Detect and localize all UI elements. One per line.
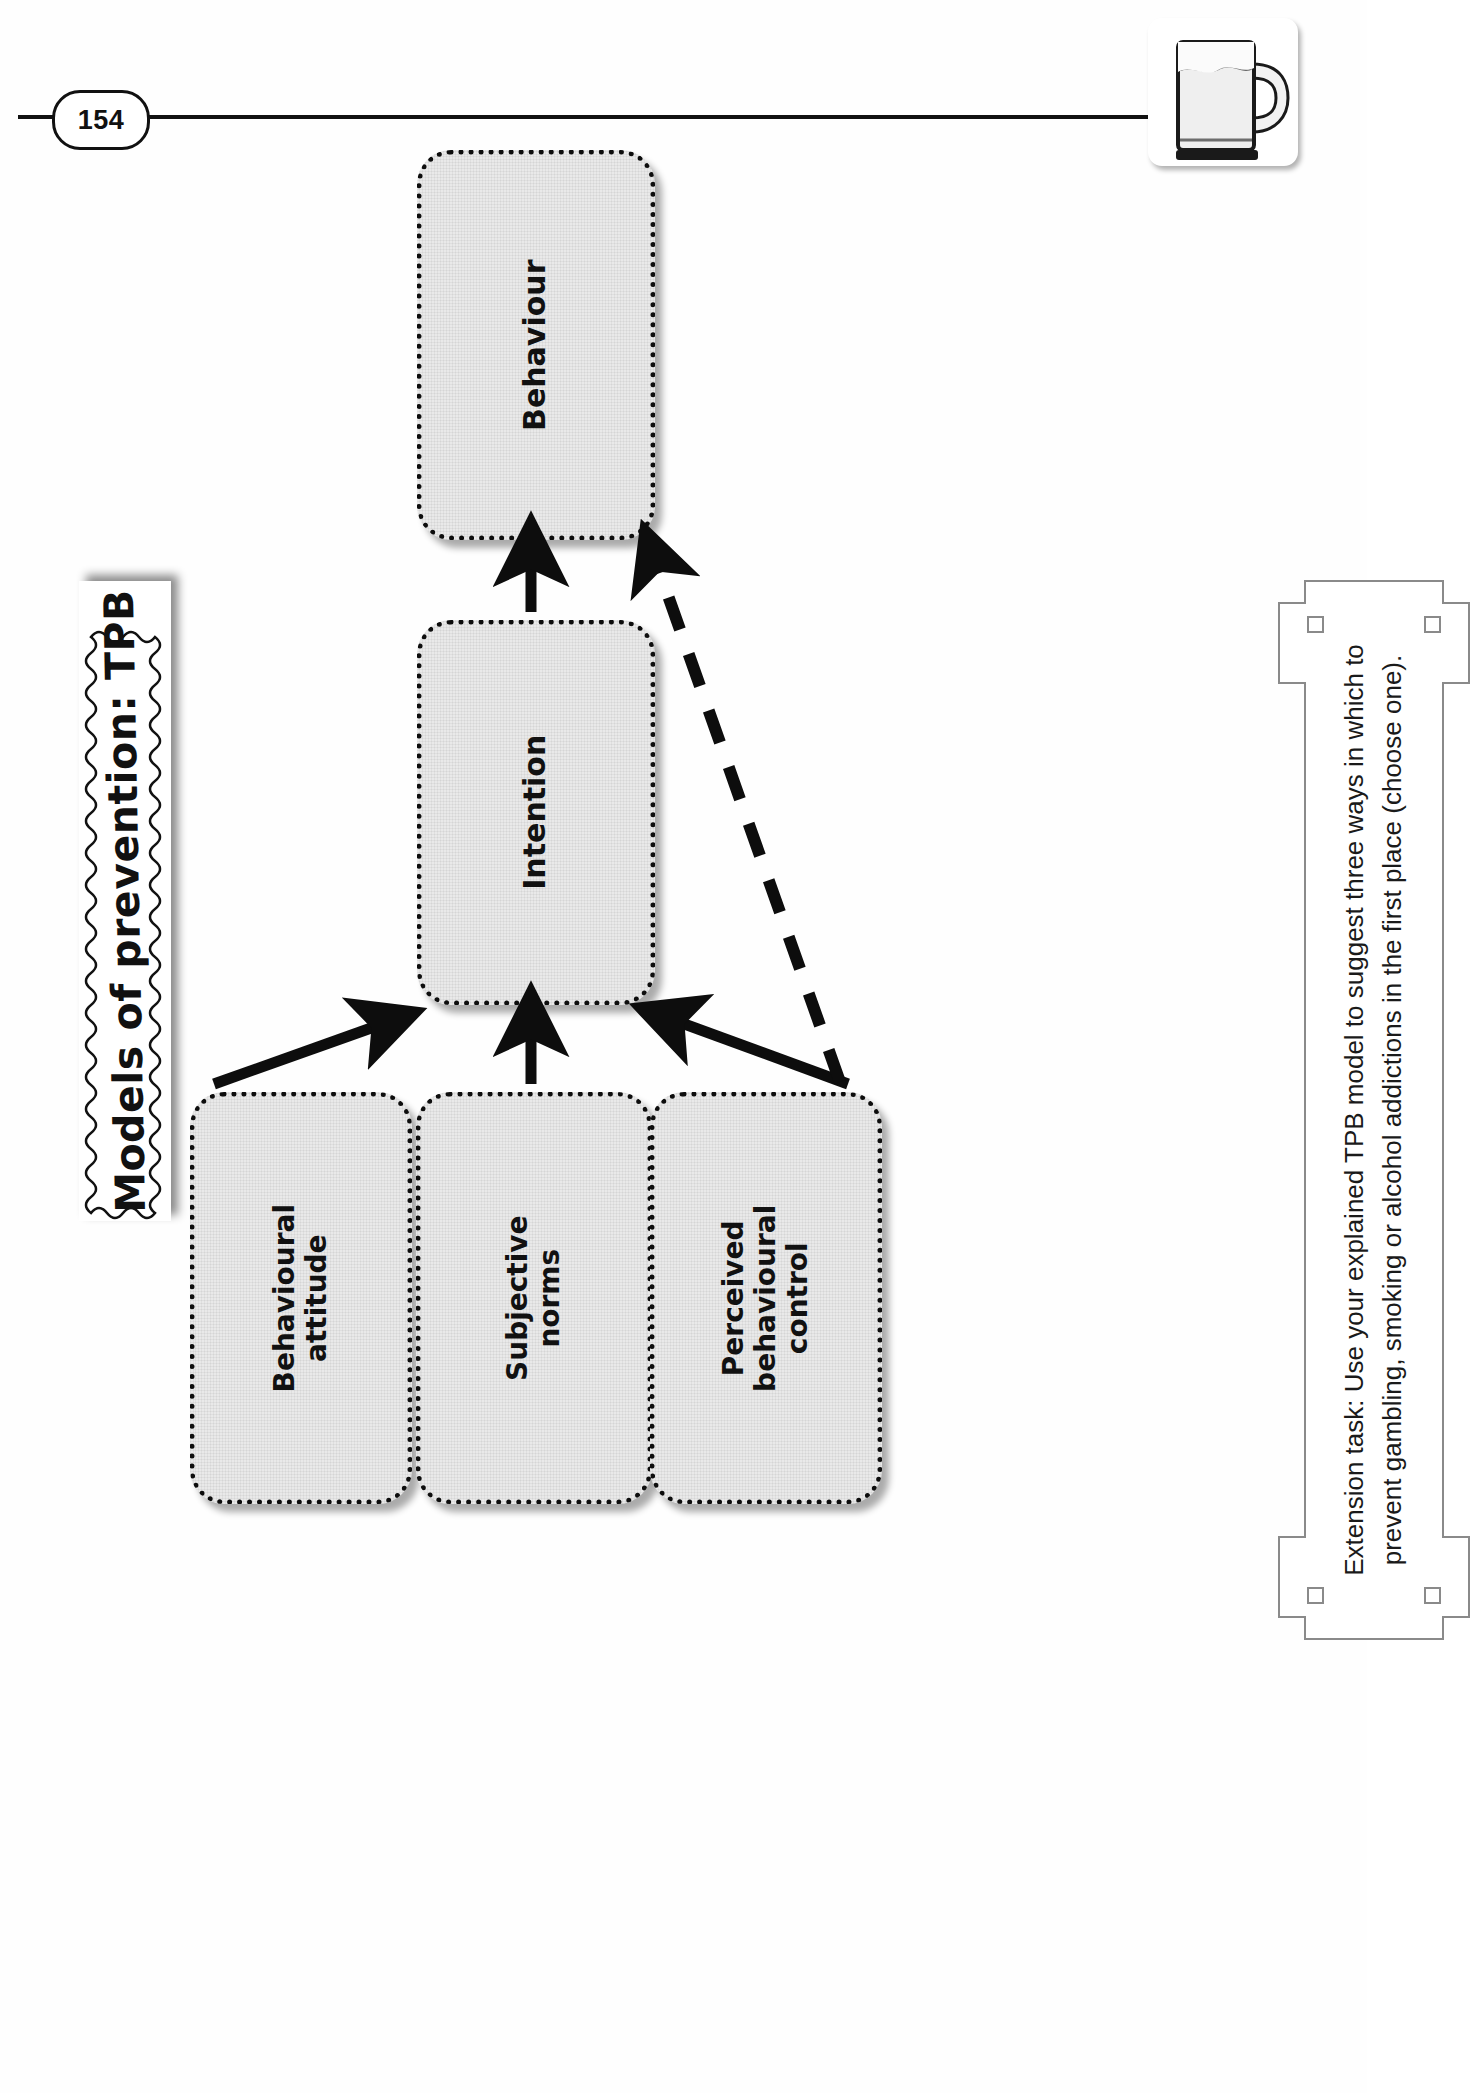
arrow-attitude-to-intention <box>214 1022 388 1084</box>
page-title-text: Models of prevention: TPB <box>73 581 177 1221</box>
panel-tab-left <box>1442 1536 1470 1618</box>
beer-mug-icon <box>1148 18 1298 166</box>
panel-tab-right <box>1442 602 1470 684</box>
extension-task-text: Extension task: Use your explained TPB m… <box>1304 580 1444 1640</box>
page-number: 154 <box>52 90 150 150</box>
arrow-control-to-behaviour-dashed <box>654 556 840 1082</box>
panel-tab-right-top <box>1278 602 1306 684</box>
page-title: Models of prevention: TPB <box>79 581 171 1221</box>
panel-tab-left-top <box>1278 1536 1306 1618</box>
arrow-control-to-intention <box>668 1018 848 1084</box>
extension-task-panel: Extension task: Use your explained TPB m… <box>1304 580 1444 1640</box>
